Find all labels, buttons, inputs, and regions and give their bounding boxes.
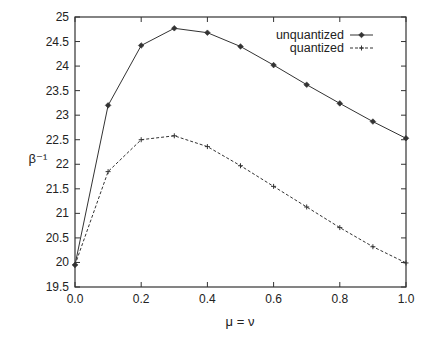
y-tick-label: 25 xyxy=(56,10,70,24)
x-tick-label: 0.8 xyxy=(331,292,348,306)
y-tick-label: 21 xyxy=(56,206,70,220)
plot-frame xyxy=(75,17,406,287)
x-axis: 0.00.20.40.60.81.0 xyxy=(67,17,415,306)
y-tick-label: 23.5 xyxy=(46,84,70,98)
y-tick-label: 20.5 xyxy=(46,231,70,245)
y-tick-label: 24 xyxy=(56,59,70,73)
series-quantized xyxy=(73,133,409,267)
x-tick-label: 0.2 xyxy=(133,292,150,306)
series-unquantized xyxy=(72,25,409,267)
y-tick-label: 24.5 xyxy=(46,35,70,49)
legend-swatch-quantized xyxy=(350,46,373,51)
y-tick-label: 23 xyxy=(56,108,70,122)
y-tick-label: 20 xyxy=(56,255,70,269)
legend-label-unquantized: unquantized xyxy=(276,28,344,42)
x-tick-label: 0.6 xyxy=(265,292,282,306)
legend-swatch-unquantized xyxy=(350,32,373,38)
y-tick-label: 22 xyxy=(56,157,70,171)
x-tick-label: 0.0 xyxy=(67,292,84,306)
legend-label-quantized: quantized xyxy=(290,41,344,55)
x-tick-label: 0.4 xyxy=(199,292,216,306)
y-axis: 19.52020.52121.52222.52323.52424.525 xyxy=(46,10,406,294)
y-tick-label: 21.5 xyxy=(46,182,70,196)
x-axis-label: μ = ν xyxy=(226,314,255,329)
line-chart: 19.52020.52121.52222.52323.52424.525 0.0… xyxy=(0,0,433,344)
legend: unquantized quantized xyxy=(276,28,373,55)
series-layer xyxy=(72,25,409,267)
x-tick-label: 1.0 xyxy=(398,292,415,306)
y-axis-label: β⁻¹ xyxy=(29,151,48,166)
y-tick-label: 22.5 xyxy=(46,133,70,147)
